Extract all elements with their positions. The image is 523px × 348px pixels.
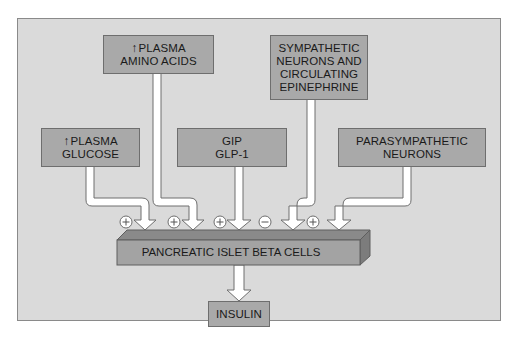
- gip-glp1-box: GIP GLP-1: [177, 128, 287, 167]
- parasympathetic-box: PARASYMPATHETIC NEURONS: [338, 128, 486, 167]
- parasympathetic-arrow: [327, 166, 411, 230]
- beta-cells-label: PANCREATIC ISLET BETA CELLS: [120, 240, 342, 264]
- up-arrow-icon: ↑: [63, 134, 69, 148]
- gip-arrow: [227, 166, 251, 230]
- arrows-layer: [0, 0, 523, 348]
- up-arrow-icon: ↑: [131, 41, 137, 55]
- sympathetic-box: SYMPATHETIC NEURONS AND CIRCULATING EPIN…: [270, 35, 368, 100]
- amino-acids-box: ↑PLASMA AMINO ACIDS: [103, 35, 214, 74]
- insulin-box: INSULIN: [208, 301, 270, 327]
- glucose-box: ↑PLASMA GLUCOSE: [41, 128, 140, 167]
- insulin-arrow: [227, 265, 251, 301]
